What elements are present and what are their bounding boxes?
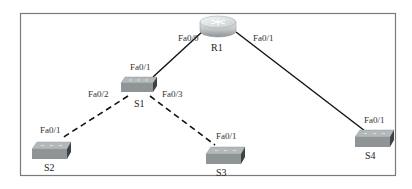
port-label-r1-fa0-1: Fa0/1 [253, 33, 274, 43]
switch-s1-icon [121, 77, 157, 92]
port-label-r1-fa0-0: Fa0/0 [178, 33, 199, 43]
device-label-s1: S1 [134, 98, 145, 109]
port-label-s1-fa0-2: Fa0/2 [88, 89, 109, 99]
port-label-s1-fa0-1: Fa0/1 [130, 62, 151, 72]
device-label-s2: S2 [44, 162, 55, 173]
port-label-s4-fa0-1: Fa0/1 [364, 115, 385, 125]
switch-s4-icon [355, 130, 394, 147]
link-s1-s2 [62, 96, 128, 138]
router-r1-icon [200, 16, 236, 37]
link-s1-s3 [150, 96, 215, 145]
link-r1-s4 [236, 32, 365, 131]
diagram-canvas [0, 0, 412, 189]
port-label-s3-fa0-1: Fa0/1 [216, 131, 237, 141]
switch-s2-icon [32, 142, 71, 159]
network-diagram: Fa0/0 Fa0/1 Fa0/1 Fa0/2 Fa0/3 Fa0/1 Fa0/… [0, 0, 412, 189]
port-label-s1-fa0-3: Fa0/3 [162, 89, 183, 99]
device-label-s4: S4 [365, 150, 376, 161]
device-label-s3: S3 [216, 167, 227, 178]
port-label-s2-fa0-1: Fa0/1 [40, 125, 61, 135]
device-label-r1: R1 [211, 42, 223, 53]
switch-s3-icon [206, 147, 245, 164]
